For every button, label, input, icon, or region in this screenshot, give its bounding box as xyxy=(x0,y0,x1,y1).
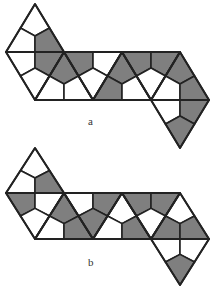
net-a xyxy=(6,4,209,148)
net-b-label: b xyxy=(88,256,94,268)
net-a-label: a xyxy=(88,115,93,127)
net-b xyxy=(6,148,209,285)
kite-tiling-diagram xyxy=(0,0,210,293)
